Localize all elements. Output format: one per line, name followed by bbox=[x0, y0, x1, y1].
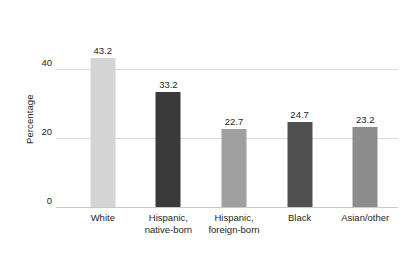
bar-group: 43.2 bbox=[70, 40, 136, 207]
x-axis-line bbox=[56, 207, 398, 208]
y-tick-mark bbox=[56, 138, 70, 139]
bar-group: 22.7 bbox=[201, 40, 267, 207]
y-tick-label: 0 bbox=[26, 195, 52, 206]
y-tick-label: 40 bbox=[26, 57, 52, 68]
bars-layer: 43.233.222.724.723.2 bbox=[70, 40, 398, 207]
bar-group: 33.2 bbox=[136, 40, 202, 207]
bar-value-label: 43.2 bbox=[94, 45, 113, 56]
y-tick-mark bbox=[56, 69, 70, 70]
bar-group: 23.2 bbox=[332, 40, 398, 207]
bar-value-label: 33.2 bbox=[159, 79, 178, 90]
x-axis-label: Asian/other bbox=[326, 212, 404, 224]
bar-value-label: 22.7 bbox=[225, 116, 244, 127]
bar bbox=[90, 58, 115, 207]
bar-chart: Percentage 02040 43.233.222.724.723.2 Wh… bbox=[0, 0, 409, 254]
y-tick-label: 20 bbox=[26, 126, 52, 137]
plot-area: 02040 43.233.222.724.723.2 bbox=[70, 40, 398, 207]
x-label-line: foreign-born bbox=[195, 224, 273, 236]
x-label-line: Asian/other bbox=[326, 212, 404, 224]
bar bbox=[221, 129, 246, 207]
bar-value-label: 23.2 bbox=[356, 114, 375, 125]
bar-value-label: 24.7 bbox=[290, 109, 309, 120]
bar bbox=[156, 92, 181, 207]
bar-group: 24.7 bbox=[267, 40, 333, 207]
x-axis-labels: WhiteHispanic,native-bornHispanic,foreig… bbox=[70, 212, 398, 248]
bar bbox=[287, 122, 312, 207]
bar bbox=[353, 127, 378, 207]
